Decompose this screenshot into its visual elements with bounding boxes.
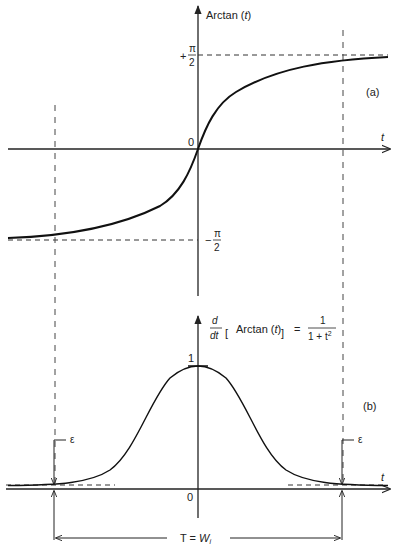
- epsilon-marker-left: ε: [54, 434, 75, 540]
- epsilon-marker-right: ε: [342, 434, 363, 540]
- svg-text:Arctan (t): Arctan (t): [236, 323, 281, 335]
- upper-asymptote-den: 2: [189, 57, 195, 68]
- origin-label-a: 0: [188, 136, 194, 148]
- lower-asymptote-sign: −: [205, 234, 211, 246]
- peak-label: 1: [188, 352, 194, 364]
- panel-a-label: (a): [366, 86, 379, 98]
- svg-text:ε: ε: [70, 434, 75, 445]
- lower-asymptote-num: π: [214, 228, 221, 239]
- panel-a: Arctan (t) t 0 (a) + π 2 − π 2: [8, 6, 390, 484]
- upper-asymptote-num: π: [189, 43, 196, 54]
- upper-asymptote-sign: +: [180, 50, 186, 62]
- lower-asymptote-den: 2: [214, 242, 220, 253]
- panel-b-label: (b): [363, 400, 376, 412]
- arctan-derivative-diagram: Arctan (t) t 0 (a) + π 2 − π 2 1 t 0 (b): [0, 0, 396, 551]
- derivative-formula: d dt [ Arctan (t) ] = 1 1 + t2: [210, 315, 336, 342]
- x-axis-label-b: t: [381, 471, 385, 483]
- right-bracket: ]: [281, 327, 284, 339]
- svg-text:dt: dt: [210, 330, 220, 341]
- svg-text:d: d: [212, 315, 218, 326]
- svg-text:ε: ε: [358, 434, 363, 445]
- left-bracket: [: [225, 327, 228, 339]
- width-label: T = Wi: [180, 532, 211, 545]
- origin-label-b: 0: [187, 491, 193, 503]
- width-dimension: T = Wi: [56, 532, 340, 545]
- svg-text:=: =: [294, 323, 300, 335]
- panel-b: 1 t 0 (b) d dt [ Arctan (t) ] = 1 1 + t2…: [6, 315, 390, 545]
- x-axis-label-a: t: [381, 131, 385, 143]
- svg-text:1: 1: [320, 315, 326, 326]
- svg-text:1 + t2: 1 + t2: [308, 330, 332, 342]
- y-axis-label-a: Arctan (t): [206, 9, 251, 21]
